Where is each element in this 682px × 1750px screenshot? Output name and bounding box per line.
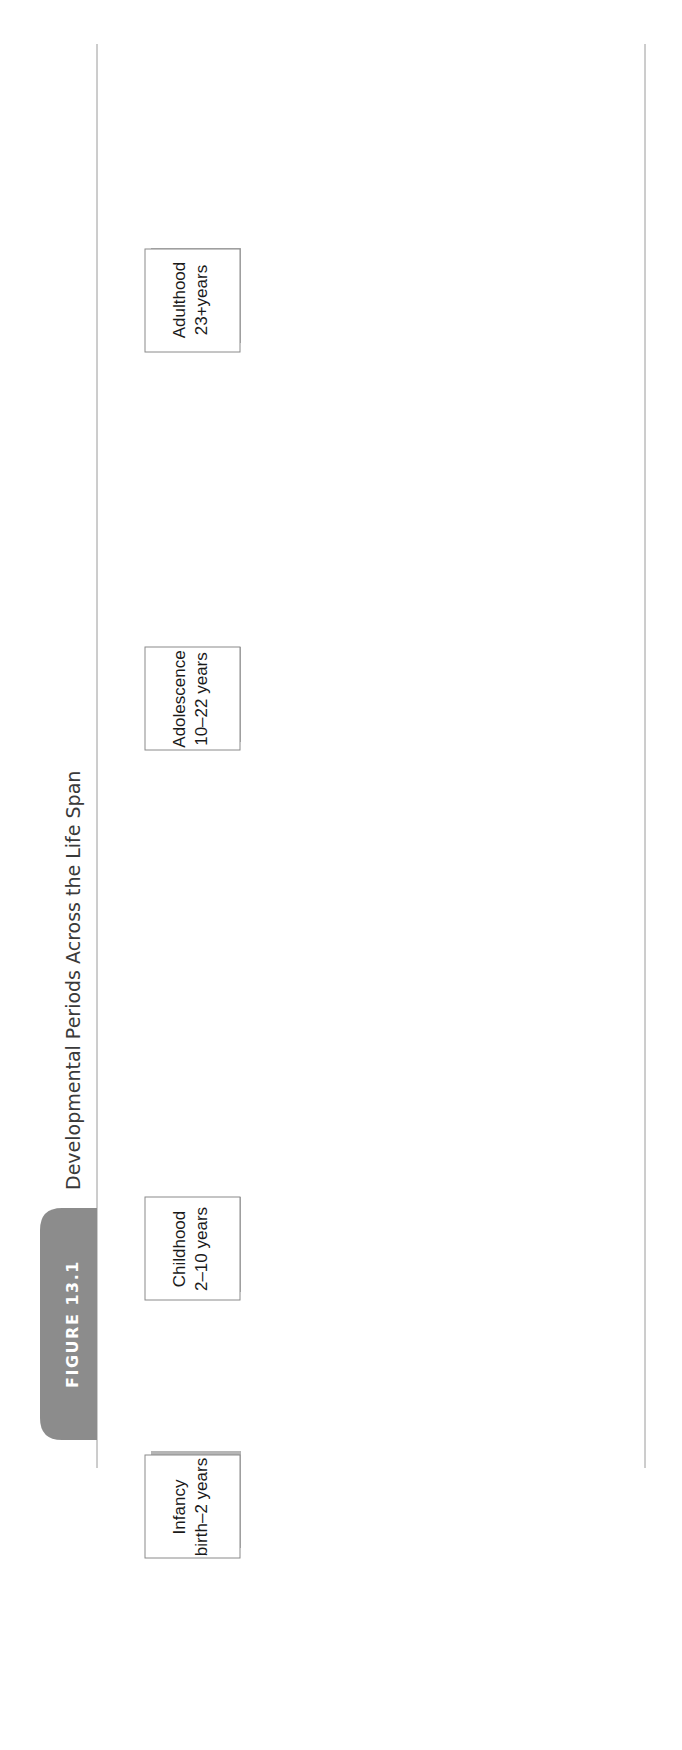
adolescence-label: Adolescence [170,650,189,747]
adolescence-range: 10–22 years [192,652,211,746]
box-adolescence: Adolescence 10–22 years [145,647,241,750]
figure-13-1: FIGURE 13.1 Developmental Periods Across… [0,0,682,1750]
infancy-range: birth–2 years [192,1458,211,1556]
infancy-label: Infancy [170,1479,189,1534]
childhood-range: 2–10 years [192,1207,211,1291]
box-infancy: Infancy birth–2 years [145,1451,241,1558]
childhood-label: Childhood [170,1211,189,1288]
box-childhood: Childhood 2–10 years [145,1197,241,1300]
figure-badge-label: FIGURE 13.1 [63,1260,82,1388]
lifespan-diagram: FIGURE 13.1 Developmental Periods Across… [0,0,682,1750]
adulthood-label: Adulthood [170,262,189,339]
box-adulthood: Adulthood 23+years [145,248,241,352]
figure-badge: FIGURE 13.1 [40,1208,97,1440]
adulthood-range: 23+years [192,265,211,335]
figure-title: Developmental Periods Across the Life Sp… [62,771,84,1190]
